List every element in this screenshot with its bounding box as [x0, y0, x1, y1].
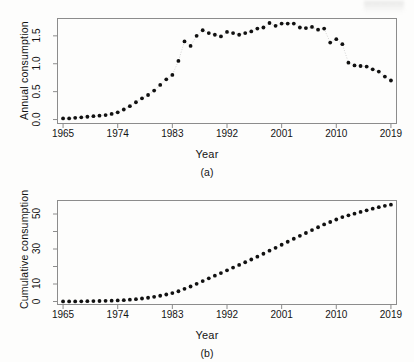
data-point — [79, 115, 83, 119]
x-tick-label: 2010 — [316, 128, 356, 139]
data-point — [92, 114, 96, 118]
data-point — [183, 40, 187, 44]
data-point — [225, 30, 229, 34]
x-tick-label: 1974 — [98, 128, 138, 139]
data-point — [170, 73, 174, 77]
x-tick-label: 1983 — [152, 309, 192, 320]
data-point — [334, 37, 338, 41]
data-point — [322, 27, 326, 31]
data-point — [146, 93, 150, 97]
data-point — [310, 25, 314, 29]
data-point — [201, 28, 205, 32]
data-point — [79, 299, 83, 303]
data-point — [231, 31, 235, 35]
x-tick-label: 1974 — [98, 309, 138, 320]
data-point — [249, 258, 253, 262]
data-point — [249, 29, 253, 33]
data-point — [61, 117, 65, 121]
data-point — [243, 31, 247, 35]
y-tick-label: 1.0 — [31, 50, 42, 76]
data-point — [85, 299, 89, 303]
data-point — [310, 228, 314, 232]
x-tick-label: 1965 — [43, 309, 83, 320]
data-point — [353, 64, 357, 68]
y-tick-label: 10 — [31, 271, 42, 297]
x-axis-title-a: Year — [0, 148, 414, 160]
data-point — [262, 252, 266, 256]
data-point — [164, 77, 168, 81]
data-point — [225, 268, 229, 272]
data-point — [122, 108, 126, 112]
data-point — [73, 116, 77, 120]
panel-a: Annual consumption Year (a) 196519741983… — [0, 0, 414, 181]
x-tick-label: 2001 — [262, 309, 302, 320]
data-point — [298, 26, 302, 30]
data-point — [316, 225, 320, 229]
data-point — [110, 299, 114, 303]
data-point — [237, 33, 241, 37]
data-point — [104, 299, 108, 303]
y-tick-label: 30 — [31, 236, 42, 262]
panel-b: Cumulative consumption Year (b) 19651974… — [0, 181, 414, 362]
data-point — [67, 300, 71, 304]
data-point — [383, 204, 387, 208]
data-point — [286, 22, 290, 26]
data-point — [67, 117, 71, 121]
data-point — [128, 298, 132, 302]
data-point — [231, 266, 235, 270]
data-point — [328, 41, 332, 45]
data-point — [140, 96, 144, 100]
data-point — [340, 42, 344, 46]
x-tick-label: 1992 — [207, 128, 247, 139]
data-point — [189, 44, 193, 48]
data-point — [359, 210, 363, 214]
data-point — [213, 274, 217, 278]
x-tick-label: 1983 — [152, 128, 192, 139]
data-point — [371, 67, 375, 71]
data-point — [268, 21, 272, 25]
data-point — [158, 294, 162, 298]
data-point — [207, 276, 211, 280]
panel-caption-a: (a) — [0, 166, 414, 178]
data-point — [298, 234, 302, 238]
data-point — [73, 299, 77, 303]
data-point — [92, 299, 96, 303]
data-point — [292, 22, 296, 26]
data-point — [347, 213, 351, 217]
data-point — [371, 207, 375, 211]
data-point — [340, 215, 344, 219]
data-point — [189, 285, 193, 289]
data-point — [116, 299, 120, 303]
data-point — [116, 110, 120, 114]
data-point — [219, 35, 223, 39]
data-point — [365, 208, 369, 212]
data-point — [98, 114, 102, 118]
y-tick-label: 50 — [31, 201, 42, 227]
data-point — [170, 291, 174, 295]
data-point — [195, 34, 199, 38]
data-point — [195, 282, 199, 286]
data-point — [177, 59, 181, 63]
data-point — [389, 79, 393, 83]
data-point — [268, 249, 272, 253]
data-point — [347, 61, 351, 65]
y-axis-title-b: Cumulative consumption — [18, 190, 30, 309]
x-tick-label: 1992 — [207, 309, 247, 320]
data-point — [164, 293, 168, 297]
data-point — [304, 231, 308, 235]
data-point — [183, 287, 187, 291]
data-point — [280, 243, 284, 247]
data-point — [177, 289, 181, 293]
data-point — [359, 64, 363, 68]
x-tick-label: 2019 — [371, 128, 411, 139]
data-point — [104, 113, 108, 117]
y-tick-label: 0.5 — [31, 78, 42, 104]
data-point — [255, 255, 259, 259]
data-point — [304, 26, 308, 30]
data-point — [353, 212, 357, 216]
data-point — [274, 246, 278, 250]
data-point — [243, 260, 247, 264]
data-point — [274, 24, 278, 28]
data-point — [389, 203, 393, 207]
x-tick-label: 1965 — [43, 128, 83, 139]
